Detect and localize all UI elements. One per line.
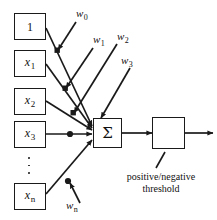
junction-bias	[55, 48, 60, 53]
threshold-node	[152, 117, 185, 149]
input-label-x2: x2	[25, 94, 36, 109]
ellipsis-dot	[28, 157, 30, 159]
input-label-x3: x3	[25, 127, 36, 142]
vertical-ellipsis-icon	[27, 157, 31, 174]
ellipsis-dot	[28, 172, 30, 174]
weight-arrow-w0	[58, 22, 76, 50]
input-label-bias: 1	[27, 21, 33, 33]
threshold-caption: positive/negative threshold	[109, 171, 213, 195]
summation-node: Σ	[93, 118, 122, 148]
input-label-xn: xn	[25, 189, 36, 204]
input-box-bias: 1	[14, 13, 46, 40]
weight-label-w1: w1	[93, 34, 105, 48]
weight-arrow-w3	[101, 68, 130, 118]
input-connection-lines	[46, 28, 92, 194]
connection-bias	[46, 28, 92, 126]
perceptron-diagram: 1 x1 x2 x3 xn w0 w1 w2 w3 wn Σ positiv	[0, 0, 217, 220]
junction-x3	[67, 131, 73, 137]
weight-label-w2: w2	[117, 31, 129, 45]
weight-label-w0: w0	[76, 8, 88, 22]
input-box-x1: x1	[14, 50, 46, 77]
input-box-xn: xn	[14, 183, 46, 210]
weight-label-wn: wn	[66, 200, 78, 214]
input-box-x2: x2	[14, 88, 46, 115]
ellipsis-dot	[28, 165, 30, 167]
junction-x1	[63, 86, 68, 91]
caption-line-1: positive/negative	[109, 171, 213, 183]
connection-xn	[46, 140, 92, 194]
input-label-x1: x1	[25, 56, 36, 71]
caption-leader-line	[156, 152, 165, 168]
connection-x2	[46, 101, 92, 130]
sigma-icon: Σ	[102, 126, 113, 141]
input-box-x3: x3	[14, 121, 46, 148]
junction-x2	[71, 110, 76, 115]
weight-label-w3: w3	[121, 55, 133, 69]
caption-line-2: threshold	[109, 183, 213, 195]
junction-xn	[65, 178, 71, 184]
weight-arrow-w1	[66, 48, 93, 88]
